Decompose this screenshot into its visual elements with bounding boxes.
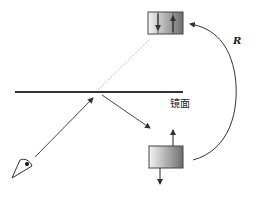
incident-ray — [35, 98, 93, 157]
image-box — [148, 12, 183, 34]
radius-label: R — [233, 35, 241, 46]
rotation-arc — [190, 24, 236, 160]
mirror-label: 镜面 — [170, 95, 190, 110]
virtual-ray — [98, 39, 150, 90]
object-box — [149, 130, 183, 184]
reflection-diagram — [0, 0, 255, 197]
eye-icon — [12, 159, 32, 178]
reflected-ray — [102, 95, 150, 128]
